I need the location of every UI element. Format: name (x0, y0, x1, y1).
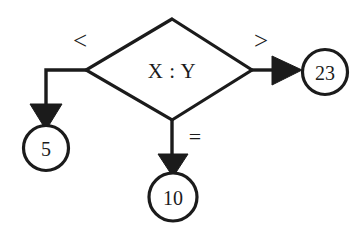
diagram-canvas: X : Y 5 10 23 < = > (0, 0, 363, 237)
edge-label-equal: = (189, 124, 201, 149)
terminal-node-23-label: 23 (315, 62, 335, 84)
decision-label: X : Y (148, 59, 196, 83)
edge-label-greater-than: > (254, 27, 268, 54)
edge-greater-than-arrowhead (272, 56, 302, 85)
edge-label-less-than: < (73, 27, 87, 54)
edge-less-than-path (46, 70, 86, 108)
terminal-node-10-label: 10 (163, 187, 183, 209)
flowchart-diagram: X : Y 5 10 23 < = > (0, 0, 363, 237)
terminal-node-5-label: 5 (41, 138, 51, 160)
